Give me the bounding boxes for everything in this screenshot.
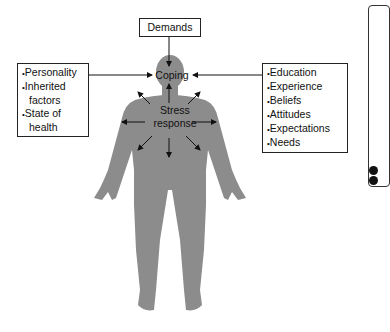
factor-item: Experience bbox=[266, 80, 344, 94]
learned-factors-box: Education Experience Beliefs Attitudes E… bbox=[262, 63, 348, 153]
human-figure bbox=[94, 55, 246, 310]
factor-item: State of health bbox=[21, 107, 85, 134]
demands-box: Demands bbox=[139, 18, 201, 37]
factor-item: Expectations bbox=[266, 122, 344, 136]
adjacent-panel-frame bbox=[368, 5, 390, 187]
stress-label-line1: Stress bbox=[140, 104, 210, 117]
individual-factors-box: Personality Inherited factors State of h… bbox=[17, 63, 89, 137]
factor-item: Education bbox=[266, 66, 344, 80]
stress-label-line2: response bbox=[140, 117, 210, 130]
factor-item: Inherited factors bbox=[21, 80, 85, 107]
coping-label: Coping bbox=[152, 69, 192, 81]
demands-label: Demands bbox=[148, 21, 193, 33]
factor-item: Beliefs bbox=[266, 94, 344, 108]
factor-item: Attitudes bbox=[266, 108, 344, 122]
factor-item: Personality bbox=[21, 66, 85, 80]
factor-item: Needs bbox=[266, 136, 344, 150]
panel-dot-icon bbox=[369, 166, 378, 175]
panel-dot-icon bbox=[369, 176, 378, 185]
stress-response-label: Stress response bbox=[140, 104, 210, 130]
